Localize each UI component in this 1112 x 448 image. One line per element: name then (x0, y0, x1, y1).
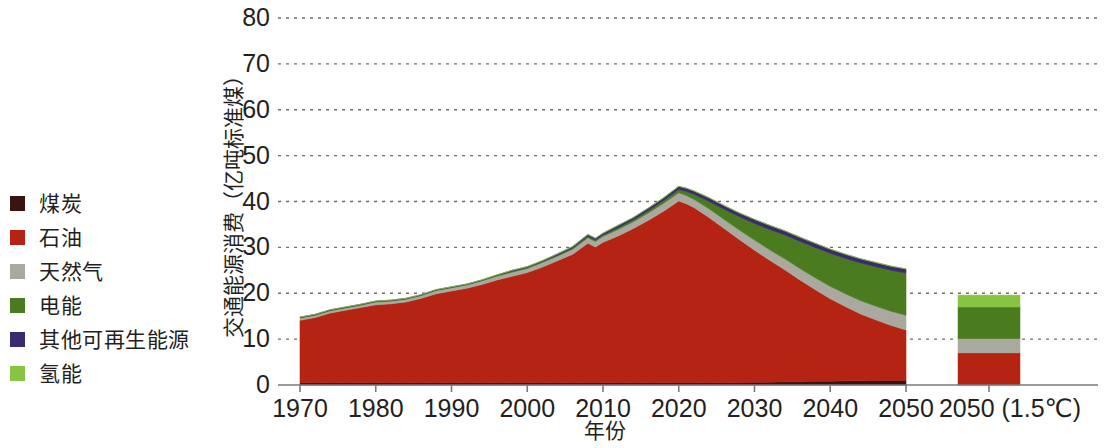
scenario-bar-segment-1 (958, 353, 1020, 385)
chart-svg (0, 0, 1112, 448)
scenario-bar-segment-5 (958, 295, 1020, 307)
y-tick-label-30: 30 (218, 234, 270, 259)
y-tick-label-20: 20 (218, 280, 270, 305)
y-tick-label-60: 60 (218, 97, 270, 122)
area-series-1 (300, 201, 906, 383)
scenario-bar-segment-2 (958, 339, 1020, 353)
y-tick-label-50: 50 (218, 143, 270, 168)
x-tick-label-scenario: 2050 (1.5℃) (920, 396, 1100, 421)
y-tick-label-10: 10 (218, 326, 270, 351)
scenario-bar-segment-3 (958, 307, 1020, 339)
y-tick-label-0: 0 (218, 372, 270, 397)
chart-page: 煤炭石油天然气电能其他可再生能源氢能 交通能源消费（亿吨标准煤） 年份 0102… (0, 0, 1112, 448)
y-tick-label-40: 40 (218, 189, 270, 214)
plot-area: 交通能源消费（亿吨标准煤） 年份 01020304050607080 19701… (0, 0, 1112, 448)
x-axis-title: 年份 (300, 420, 910, 441)
y-tick-label-80: 80 (218, 5, 270, 30)
y-tick-label-70: 70 (218, 51, 270, 76)
